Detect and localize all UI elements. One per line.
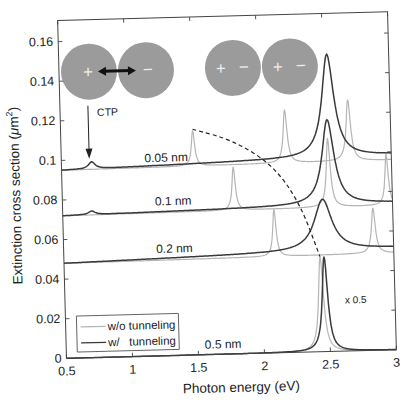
label-0.05nm: 0.05 nm <box>144 150 188 165</box>
y-tick-label: 0.04 <box>35 272 60 287</box>
legend-swatch-with-tunneling <box>81 342 106 343</box>
ctp-arrow-icon <box>84 106 92 159</box>
label-0.1nm: 0.1 nm <box>155 194 192 209</box>
particle-left <box>204 39 261 96</box>
minus-sign: − <box>296 56 306 75</box>
y-axis-label: Extinction cross section (μm2) <box>4 107 26 285</box>
y-tick-label: 0.02 <box>36 312 61 327</box>
legend-swatch-without-tunneling <box>81 326 106 327</box>
label-ctp: CTP <box>97 105 118 118</box>
x-tick-label: 3 <box>393 356 400 370</box>
x-tick-label: 1.5 <box>190 361 208 375</box>
x-tick-label: 1 <box>129 363 136 377</box>
series-curves <box>59 53 397 359</box>
y-tick-label: 0.1 <box>39 154 57 168</box>
minus-sign: − <box>143 60 153 79</box>
dashed-trend-line <box>193 126 320 260</box>
x-tick-label: 2.5 <box>322 357 340 371</box>
plus-sign: + <box>273 58 283 77</box>
extinction-chart: + − + − + − 0.5 1 1.5 <box>0 0 410 403</box>
x-axis-label: Photon energy (eV) <box>183 378 300 396</box>
y-tick-label: 0.12 <box>31 114 56 129</box>
x-tick-labels: 0.5 1 1.5 2 2.5 3 <box>58 356 400 379</box>
plus-sign: + <box>83 63 93 82</box>
label-0.2nm: 0.2 nm <box>156 241 193 256</box>
y-tick-label: 0.08 <box>33 193 58 208</box>
label-scale-x0.5: x 0.5 <box>345 294 367 306</box>
legend-label-without-tunneling: w/o tunneling <box>106 318 175 332</box>
curve-0-1-nm-w-o-tunneling <box>61 136 393 216</box>
y-tick-label: 0.14 <box>30 74 55 89</box>
inset-charge-transfer-dimer: + − <box>60 41 174 100</box>
inset-dipole-dimer: + − + − <box>204 38 318 97</box>
minus-sign: − <box>239 57 249 76</box>
y-tick-label: 0.16 <box>29 35 54 50</box>
y-tick-label: 0 <box>54 351 61 365</box>
curve-0-2-nm-w-tunneling <box>62 197 393 263</box>
y-tick-labels: 0 0.02 0.04 0.06 0.08 0.1 0.12 0.14 0.16 <box>29 35 62 366</box>
x-tick-label: 2 <box>261 359 268 373</box>
label-0.5nm: 0.5 nm <box>205 337 242 352</box>
particle-right <box>261 38 318 95</box>
plus-sign: + <box>216 59 226 78</box>
x-tick-label: 0.5 <box>58 364 76 378</box>
legend-label-with-tunneling: w/ tunneling <box>107 334 176 348</box>
y-tick-label: 0.06 <box>34 233 59 248</box>
legend: w/o tunneling w/ tunneling <box>76 313 179 352</box>
